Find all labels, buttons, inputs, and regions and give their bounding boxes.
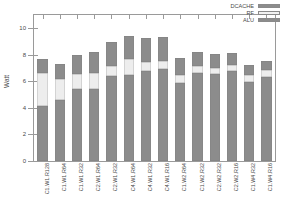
bar-C2.W2.R32[interactable]: [210, 54, 220, 161]
x-axis-tick: [60, 15, 61, 19]
x-axis-tick: [146, 15, 147, 19]
bar-C1.W4.R32[interactable]: [244, 65, 254, 161]
bar-segment-alu: [37, 106, 47, 161]
legend-item-rf[interactable]: RF: [230, 10, 280, 16]
x-axis-labels: C1.W1.R128C1.W1.R64C1.W1.R32C2.W1.R64C2.…: [33, 163, 276, 215]
bar-segment-dcache: [55, 64, 65, 79]
legend-item-alu[interactable]: ALU: [230, 17, 280, 23]
bar-C2.W1.R32[interactable]: [106, 42, 116, 161]
bar-segment-alu: [158, 69, 168, 161]
bar-segment-rf: [261, 70, 271, 77]
x-axis-tick: [215, 15, 216, 19]
chart-legend: DCACHERFALU: [228, 2, 282, 24]
x-axis-tick-label: C1.W2.R64: [181, 163, 187, 191]
y-axis-tick-label: 6: [23, 78, 26, 84]
bar-segment-alu: [89, 89, 99, 161]
legend-label: RF: [247, 10, 254, 16]
y-axis-title: Watt: [3, 75, 10, 88]
bar-segment-rf: [72, 74, 82, 89]
x-axis-tick: [198, 15, 199, 19]
x-axis-tick-label: C2.W2.R32: [216, 163, 222, 191]
bar-segment-rf: [175, 75, 185, 83]
x-axis-tick: [129, 15, 130, 19]
bar-segment-alu: [175, 83, 185, 161]
bar-segment-alu: [55, 100, 65, 161]
x-axis-tick: [180, 15, 181, 19]
bar-segment-rf: [124, 59, 134, 74]
x-axis-tick-label: C1.W4.R32: [250, 163, 256, 191]
x-axis-tick: [111, 15, 112, 19]
bar-C1.W2.R32[interactable]: [192, 52, 202, 161]
bar-segment-dcache: [227, 53, 237, 66]
bar-segment-rf: [55, 79, 65, 100]
legend-label: ALU: [243, 17, 254, 23]
bar-segment-dcache: [210, 54, 220, 68]
bar-segment-alu: [192, 73, 202, 161]
bar-C2.W2.R16[interactable]: [227, 53, 237, 161]
bar-segment-alu: [244, 82, 254, 161]
bar-C4.W1.R32[interactable]: [141, 38, 151, 161]
x-axis-tick-label: C2.W2.R16: [233, 163, 239, 191]
stacked-bar-chart: Watt 0246810 C1.W1.R128C1.W1.R64C1.W1.R3…: [0, 0, 286, 216]
legend-swatch-dcache-icon: [258, 4, 280, 8]
bar-C4.W1.R16[interactable]: [158, 37, 168, 161]
legend-swatch-alu-icon: [258, 18, 280, 22]
bar-segment-dcache: [124, 36, 134, 59]
x-axis-tick-label: C4.W1.R32: [147, 163, 153, 191]
x-axis-tick-label: C1.W4.R16: [267, 163, 273, 191]
bar-segment-alu: [141, 71, 151, 161]
y-axis-tick-label: 8: [23, 52, 26, 58]
bar-segment-rf: [141, 62, 151, 71]
bar-segment-dcache: [106, 42, 116, 66]
bar-segment-dcache: [158, 37, 168, 62]
bar-segment-alu: [106, 76, 116, 161]
bar-C1.W1.R64[interactable]: [55, 64, 65, 161]
bar-segment-dcache: [192, 52, 202, 67]
bar-segment-alu: [124, 75, 134, 161]
x-axis-tick-label: C1.W1.R64: [61, 163, 67, 191]
x-axis-tick-label: C4.W1.R64: [130, 163, 136, 191]
bar-segment-rf: [244, 75, 254, 82]
bar-segment-alu: [210, 74, 220, 161]
x-axis-tick: [94, 15, 95, 19]
y-axis-tick-label: 4: [23, 105, 26, 111]
plot-area: 0246810: [34, 15, 275, 161]
x-axis-tick: [77, 15, 78, 19]
x-axis-tick-label: C1.W1.R128: [44, 163, 50, 194]
x-axis-tick: [163, 15, 164, 19]
bar-C1.W2.R64[interactable]: [175, 58, 185, 161]
bar-segment-rf: [37, 73, 47, 106]
x-axis-tick-label: C1.W2.R32: [199, 163, 205, 191]
bar-segment-dcache: [72, 55, 82, 74]
bar-C2.W1.R64[interactable]: [89, 52, 99, 161]
legend-item-dcache[interactable]: DCACHE: [230, 3, 280, 9]
bar-C1.W4.R16[interactable]: [261, 61, 271, 161]
plot-frame: 0246810: [33, 14, 276, 162]
y-axis-tick-inner: [34, 28, 38, 29]
legend-swatch-rf-icon: [258, 11, 280, 15]
y-axis-tick-inner: [34, 161, 38, 162]
x-axis-tick-label: C2.W1.R64: [95, 163, 101, 191]
bar-segment-alu: [72, 89, 82, 161]
y-axis-tick-label: 2: [23, 131, 26, 137]
x-axis-tick: [43, 15, 44, 19]
x-axis-tick-label: C4.W1.R16: [164, 163, 170, 191]
bar-C1.W1.R128[interactable]: [37, 59, 47, 161]
bar-segment-dcache: [261, 61, 271, 70]
bar-C4.W1.R64[interactable]: [124, 36, 134, 161]
bar-segment-dcache: [244, 65, 254, 75]
bar-segment-dcache: [141, 38, 151, 63]
bar-C1.W1.R32[interactable]: [72, 55, 82, 161]
bar-segment-alu: [261, 77, 271, 161]
x-axis-tick-label: C1.W1.R32: [78, 163, 84, 191]
bar-segment-dcache: [37, 59, 47, 74]
legend-label: DCACHE: [230, 3, 254, 9]
y-axis-tick-inner: [34, 55, 38, 56]
y-axis-tick-label: 0: [23, 158, 26, 164]
bar-segment-alu: [227, 71, 237, 161]
bar-segment-dcache: [89, 52, 99, 73]
x-axis-tick-label: C2.W1.R32: [112, 163, 118, 191]
bar-segment-rf: [89, 73, 99, 89]
bar-segment-dcache: [175, 58, 185, 75]
bar-segment-rf: [192, 66, 202, 73]
